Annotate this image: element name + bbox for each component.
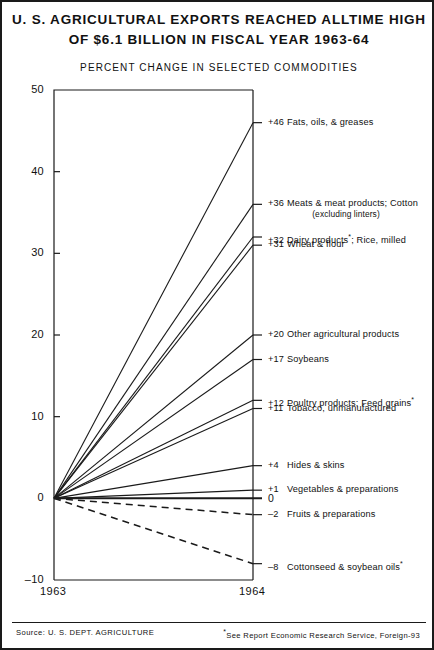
series-label: +31Wheat & flour (268, 239, 345, 250)
footnote-note: *See Report Economic Research Service, F… (223, 628, 420, 640)
series-name: Fats, oils, & greases (287, 117, 373, 127)
series-value: +17 (268, 354, 287, 365)
series-name: Vegetables & preparations (287, 484, 399, 494)
footnote-asterisk: * (400, 560, 403, 567)
y-tick-label: 0 (10, 491, 44, 503)
y-tick-label: 10 (10, 410, 44, 422)
footer-divider (12, 622, 426, 623)
y-tick-label: 20 (10, 328, 44, 340)
series-label: +4Hides & skins (268, 460, 345, 471)
y-tick-label: 30 (10, 246, 44, 258)
series-name: Fruits & preparations (287, 509, 375, 519)
zero-series-marker: 0 (268, 492, 274, 504)
series-line (54, 204, 253, 498)
footnote-asterisk: * (411, 396, 414, 403)
series-value: +4 (268, 460, 287, 471)
footnote-text: See Report Economic Research Service, Fo… (226, 631, 420, 640)
series-name: Soybeans (287, 354, 329, 364)
series-name: Tobacco, unmanufactured (287, 403, 396, 413)
series-value: +20 (268, 329, 287, 340)
y-tick-label: –10 (10, 573, 44, 585)
series-value: +36 (268, 198, 287, 209)
series-line (54, 498, 253, 514)
series-label: +46Fats, oils, & greases (268, 117, 373, 128)
series-label: +17Soybeans (268, 354, 329, 365)
series-name: Wheat & flour (287, 239, 345, 249)
x-tick-label: 1964 (239, 585, 265, 597)
series-label: –8Cottonseed & soybean oils* (268, 558, 403, 573)
series-value: –8 (268, 562, 287, 573)
series-value: +31 (268, 239, 287, 250)
series-line (54, 335, 253, 498)
series-label: –2Fruits & preparations (268, 509, 375, 520)
series-line (54, 466, 253, 499)
series-value: +46 (268, 117, 287, 128)
chart-page: U. S. AGRICULTURAL EXPORTS REACHED ALLTI… (0, 0, 434, 650)
series-label: +20Other agricultural products (268, 329, 399, 340)
series-value: –2 (268, 509, 287, 520)
series-line (54, 400, 253, 498)
y-tick-label: 40 (10, 165, 44, 177)
chart-plot-area (2, 2, 434, 650)
series-label: +36Meats & meat products; Cotton(excludi… (268, 198, 418, 220)
series-name: Meats & meat products; Cotton (287, 198, 418, 208)
series-line (54, 245, 253, 498)
series-name: Cottonseed & soybean oils* (287, 562, 403, 572)
series-value: +11 (268, 403, 287, 414)
y-tick-label: 50 (10, 83, 44, 95)
series-label: +1Vegetables & preparations (268, 484, 399, 495)
series-label: +11Tobacco, unmanufactured (268, 403, 396, 414)
series-line (54, 490, 253, 498)
x-tick-label: 1963 (40, 585, 66, 597)
series-line (54, 123, 253, 499)
series-line (54, 360, 253, 499)
series-sublabel: (excluding linters) (274, 209, 418, 220)
series-name: Hides & skins (287, 460, 345, 470)
series-name: Other agricultural products (287, 329, 399, 339)
source-note: Source: U. S. DEPT. AGRICULTURE (16, 628, 154, 637)
series-line (54, 498, 253, 563)
series-line (54, 237, 253, 498)
footnote-asterisk: * (348, 233, 351, 240)
